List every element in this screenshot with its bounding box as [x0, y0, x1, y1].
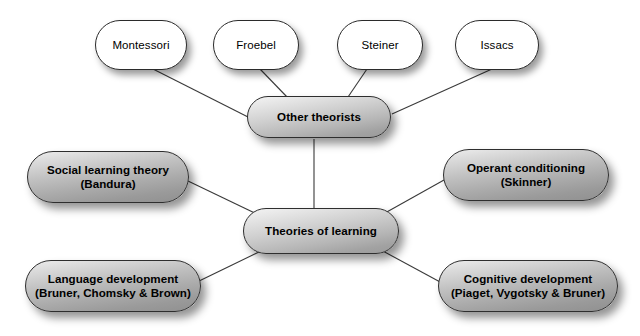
edge-froebel	[260, 69, 288, 98]
node-label-social-learning-theory: Social learning theory (Bandura)	[41, 163, 175, 191]
node-steiner[interactable]: Steiner	[337, 20, 423, 70]
node-cognitive-development[interactable]: Cognitive development (Piaget, Vygotsky …	[438, 260, 618, 312]
node-label-theories-of-learning: Theories of learning	[259, 224, 383, 238]
node-label-language-development: Language development (Bruner, Chomsky & …	[29, 272, 197, 300]
diagram-canvas: MontessoriFroebelSteinerIssacsOther theo…	[0, 0, 640, 336]
edge-cognitive-development	[381, 250, 442, 283]
node-label-cognitive-development: Cognitive development (Piaget, Vygotsky …	[445, 272, 611, 300]
node-label-issacs: Issacs	[474, 38, 519, 52]
node-label-other-theorists: Other theorists	[271, 110, 367, 124]
node-label-operant-conditioning: Operant conditioning (Skinner)	[461, 161, 591, 189]
edge-language-development	[195, 250, 263, 283]
node-operant-conditioning[interactable]: Operant conditioning (Skinner)	[443, 149, 609, 201]
node-froebel[interactable]: Froebel	[213, 20, 299, 70]
node-label-montessori: Montessori	[106, 38, 175, 52]
edge-social-learning	[188, 181, 259, 215]
node-issacs[interactable]: Issacs	[455, 20, 539, 70]
node-label-froebel: Froebel	[230, 38, 282, 52]
edge-steiner	[348, 69, 367, 97]
edge-operant-conditioning	[385, 180, 444, 213]
node-label-steiner: Steiner	[355, 38, 404, 52]
node-theories-of-learning[interactable]: Theories of learning	[243, 208, 399, 254]
edge-issacs	[392, 69, 492, 114]
node-montessori[interactable]: Montessori	[95, 20, 187, 70]
node-social-learning-theory[interactable]: Social learning theory (Bandura)	[27, 151, 189, 203]
node-other-theorists[interactable]: Other theorists	[247, 96, 391, 138]
node-language-development[interactable]: Language development (Bruner, Chomsky & …	[25, 260, 201, 312]
edge-montessori	[153, 69, 250, 118]
